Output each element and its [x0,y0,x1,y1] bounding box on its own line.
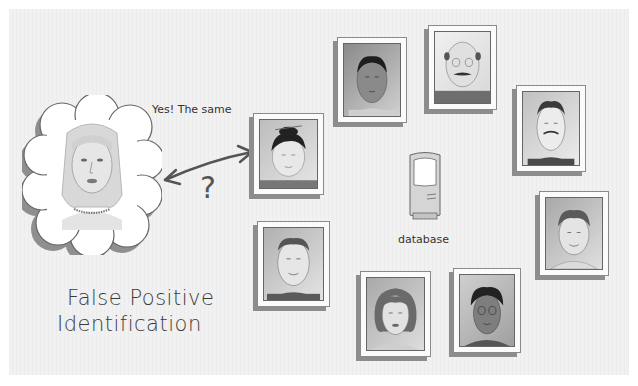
database-label: database [398,233,449,246]
title-line-1: False Positive [67,286,214,310]
photo-short-hair-man [257,221,330,307]
photo-curly-hair-woman [360,271,431,357]
server-tower-icon [405,150,445,230]
photo-curly-hair-man [539,191,609,276]
cloud-shape-icon [22,95,162,255]
title-line-2: Identification [57,312,202,336]
photo-mustache-man [516,85,586,172]
thought-cloud [22,95,162,255]
question-mark: ? [200,170,216,205]
photo-glasses-woman [453,268,521,353]
matched-photo [253,113,324,195]
photo-dark-hair-man [337,37,407,123]
photo-bald-glasses-man [428,25,497,110]
speech-text: Yes! The same [152,103,232,116]
